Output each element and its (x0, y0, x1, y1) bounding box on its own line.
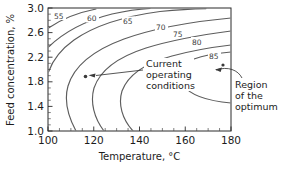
y-axis-title: Feed concentration, % (5, 14, 16, 126)
contour-label-75: 75 (173, 30, 183, 39)
x-axis-title: Temperature, °C (98, 151, 181, 162)
current-operating-conditions-annotation: Current operating conditions (84, 58, 195, 91)
x-tick-label-120: 120 (84, 134, 104, 146)
x-tick-label-140: 140 (129, 134, 149, 146)
contour-label-80: 80 (192, 38, 202, 47)
y-tick-label-3-0: 3.0 (27, 2, 44, 14)
optimum-annotation-line-3: optimum (235, 101, 278, 112)
contour-label-65: 65 (123, 17, 133, 26)
current-point-marker (84, 75, 88, 79)
optimum-annotation-line-2: of the (235, 90, 263, 101)
y-tick-label-1-8: 1.8 (27, 75, 44, 87)
region-of-the-optimum-annotation: Region of the optimum (215, 63, 281, 114)
contour-plot-figure: 55 60 65 70 75 80 85 (0, 0, 281, 169)
x-tick-labels: 100 120 140 160 180 (38, 134, 241, 146)
y-tick-label-2-2: 2.2 (27, 51, 44, 63)
contour-label-55: 55 (54, 12, 64, 21)
contour-label-70: 70 (156, 23, 166, 32)
contour-labels: 55 60 65 70 75 80 85 (53, 11, 221, 61)
current-annotation-line-1: Current (146, 58, 182, 69)
contour-label-60: 60 (87, 14, 97, 23)
current-annotation-line-3: conditions (146, 80, 195, 91)
x-tick-label-160: 160 (175, 134, 195, 146)
optimum-point-marker (221, 63, 224, 66)
y-tick-label-1-4: 1.4 (27, 100, 44, 112)
optimum-annotation-line-1: Region (235, 79, 268, 90)
chart-canvas: 55 60 65 70 75 80 85 (0, 0, 281, 169)
contour-label-85: 85 (209, 52, 219, 61)
optimum-arrowhead-icon (215, 68, 222, 72)
current-annotation-line-2: operating (146, 69, 192, 80)
x-tick-label-180: 180 (221, 134, 241, 146)
x-tick-label-100: 100 (38, 134, 58, 146)
y-tick-label-2-6: 2.6 (27, 26, 44, 38)
y-tick-labels: 1.0 1.4 1.8 2.2 2.6 3.0 (27, 2, 44, 137)
contour-curves (49, 9, 232, 132)
current-arrowhead-icon (89, 74, 96, 78)
